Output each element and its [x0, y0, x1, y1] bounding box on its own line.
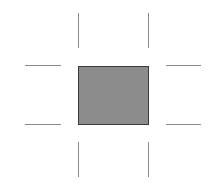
- crop-mark-bottom-left: [78, 142, 79, 177]
- crop-mark-bottom-right: [148, 142, 149, 177]
- crop-mark-left-top: [25, 65, 61, 66]
- crop-mark-top-left: [78, 13, 79, 48]
- crop-mark-left-bottom: [25, 124, 61, 125]
- gray-square: [78, 66, 149, 125]
- crop-mark-right-bottom: [166, 124, 201, 125]
- crop-mark-right-top: [166, 65, 201, 66]
- crop-mark-top-right: [148, 13, 149, 48]
